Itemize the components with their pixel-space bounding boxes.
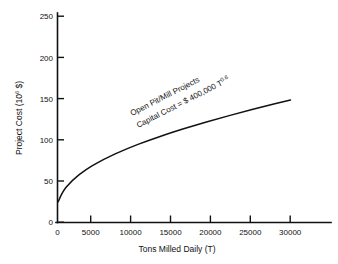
y-tick-label: 250: [40, 12, 54, 21]
chart-svg: 250 200 150 100 50 0 0 5000 10000 15000 …: [0, 0, 338, 264]
chart-figure: 250 200 150 100 50 0 0 5000 10000 15000 …: [0, 0, 338, 264]
y-axis-title-tail: $): [14, 81, 24, 91]
x-tick-label: 30000: [279, 228, 302, 237]
x-tick-label: 15000: [159, 228, 182, 237]
x-axis-title: Tons Milled Daily (T): [139, 244, 216, 254]
x-tick-label: 5000: [82, 228, 100, 237]
x-tick-label: 10000: [119, 228, 142, 237]
y-tick-label: 0: [49, 218, 54, 227]
x-tick-label: 20000: [199, 228, 222, 237]
x-tick-label: 0: [55, 228, 60, 237]
y-tick-label: 200: [40, 54, 54, 63]
y-axis-title-main: Project Cost (10: [14, 94, 24, 155]
y-tick-label: 150: [40, 95, 54, 104]
y-tick-label: 100: [40, 136, 54, 145]
y-tick-label: 50: [44, 177, 53, 186]
x-tick-label: 25000: [239, 228, 262, 237]
